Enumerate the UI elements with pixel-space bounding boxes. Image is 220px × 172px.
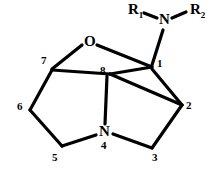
- locant-6: 6: [17, 101, 23, 112]
- locant-4: 4: [101, 140, 107, 151]
- bond-c8-c1: [110, 67, 152, 74]
- bond-c2-c3: [152, 105, 182, 148]
- substituent-r2-subscript: 2: [201, 10, 206, 20]
- chemical-structure-figure: O N N R1 R2 1 2 3 4 5 6 7 8: [0, 0, 220, 172]
- bond-c8-c2: [110, 74, 182, 105]
- locant-1: 1: [157, 58, 163, 69]
- bond-c8-n4: [105, 76, 107, 124]
- substituent-r1-label[interactable]: R1: [128, 2, 143, 20]
- substituent-r2-symbol: R: [190, 1, 201, 17]
- bond-c5-n4: [62, 135, 96, 146]
- ring-nitrogen-atom-label: N: [99, 124, 110, 139]
- bond-c7-o: [52, 45, 82, 69]
- amine-nitrogen-atom-label: N: [159, 12, 170, 27]
- oxygen-atom-label: O: [84, 34, 96, 49]
- bond-c7-c6: [30, 70, 52, 110]
- locant-7: 7: [41, 55, 47, 66]
- locant-2: 2: [186, 100, 192, 111]
- bond-c6-c5: [30, 110, 62, 146]
- bond-amine-n-r2[interactable]: [172, 12, 186, 18]
- locant-8: 8: [100, 65, 106, 76]
- bond-amine-n-r1[interactable]: [144, 13, 157, 18]
- bond-c3-n4: [113, 134, 152, 148]
- substituent-r1-subscript: 1: [139, 10, 144, 20]
- substituent-r2-label[interactable]: R2: [190, 2, 205, 20]
- bond-skeleton: [0, 0, 220, 172]
- locant-5: 5: [52, 152, 58, 163]
- substituent-r1-symbol: R: [128, 1, 139, 17]
- locant-3: 3: [152, 152, 158, 163]
